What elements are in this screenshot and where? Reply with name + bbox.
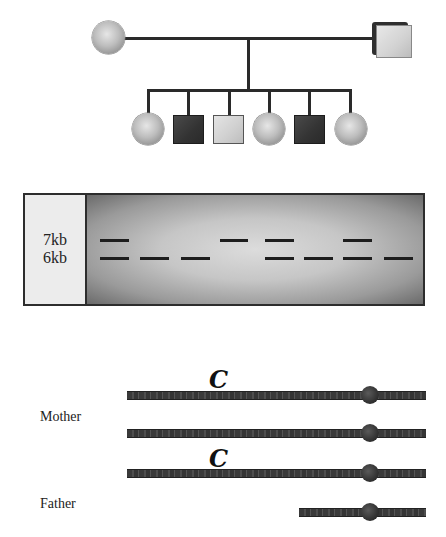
band-lane5-7kb <box>265 239 294 242</box>
child-drop-line <box>187 89 190 117</box>
size-label-6kb: 6kb <box>25 250 85 266</box>
mother-chromosome-2 <box>127 429 426 438</box>
father-label: Father <box>40 497 76 511</box>
child-drop-line <box>228 89 231 117</box>
child-5-male-affected <box>294 115 325 144</box>
band-lane6-6kb <box>304 257 333 260</box>
sibship-line <box>147 89 352 92</box>
gel-body <box>87 195 423 304</box>
band-lane7-7kb <box>343 239 372 242</box>
child-4-female <box>253 113 285 145</box>
child-6-female <box>335 113 367 145</box>
father-chromosome-1 <box>127 469 426 478</box>
southern-blot-gel: 7kb 6kb <box>23 193 425 306</box>
father-symbol-face <box>376 25 412 58</box>
centromere-icon <box>361 503 379 521</box>
c-marker-mother: C <box>209 368 228 392</box>
descent-line <box>247 38 250 91</box>
band-lane3-6kb <box>181 257 210 260</box>
centromere-icon <box>361 386 379 404</box>
centromere-icon <box>361 464 379 482</box>
mother-symbol <box>92 21 125 54</box>
father-symbol <box>372 22 412 58</box>
diagram-canvas: 7kb 6kb C Mother C <box>0 0 446 537</box>
child-drop-line <box>308 89 311 117</box>
centromere-icon <box>361 424 379 442</box>
band-lane1-7kb <box>100 239 129 242</box>
band-lane1-6kb <box>100 257 129 260</box>
band-lane8-6kb <box>384 257 413 260</box>
child-1-female <box>132 113 164 145</box>
band-lane5-6kb <box>265 257 294 260</box>
child-3-male <box>213 115 244 144</box>
child-2-male-affected <box>173 115 204 144</box>
size-label-7kb: 7kb <box>25 232 85 248</box>
band-lane4-7kb <box>220 239 248 242</box>
band-lane7-6kb <box>343 257 372 260</box>
band-lane2-6kb <box>140 257 169 260</box>
c-marker-father: C <box>209 447 228 471</box>
mother-chromosome-1 <box>127 391 426 400</box>
mother-label: Mother <box>40 410 81 424</box>
gel-size-labels: 7kb 6kb <box>25 195 87 304</box>
